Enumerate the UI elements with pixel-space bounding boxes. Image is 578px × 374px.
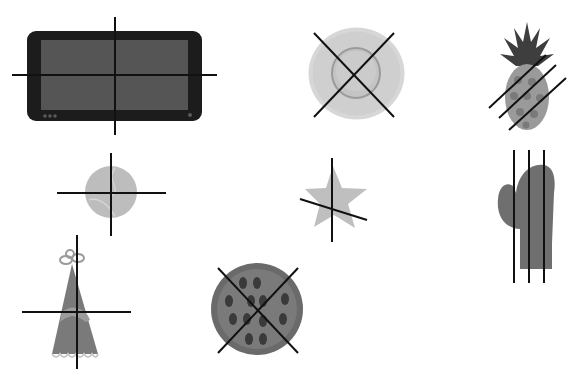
party-hat-object[interactable]: party hat — [50, 250, 100, 362]
pizza-label: pizza — [211, 355, 212, 356]
tablet-label: tablet — [27, 121, 28, 122]
party-hat-label: party hat — [50, 362, 51, 363]
canvas-stage: tablet plate pineapple — [0, 0, 578, 374]
plate-object[interactable]: plate — [308, 27, 405, 120]
mitten-object[interactable]: mitten — [496, 163, 556, 269]
pineapple-label: pineapple — [498, 132, 499, 133]
ball-object[interactable]: ball — [85, 166, 137, 218]
tablet-object[interactable]: tablet — [27, 31, 202, 121]
mitten-label: mitten — [496, 269, 497, 270]
ball-label: ball — [85, 218, 86, 219]
pineapple-object[interactable]: pineapple — [498, 22, 556, 132]
star-label: star — [305, 228, 306, 229]
plate-label: plate — [308, 120, 309, 121]
pizza-object[interactable]: pizza — [211, 263, 303, 355]
star-object[interactable]: star — [305, 166, 367, 228]
